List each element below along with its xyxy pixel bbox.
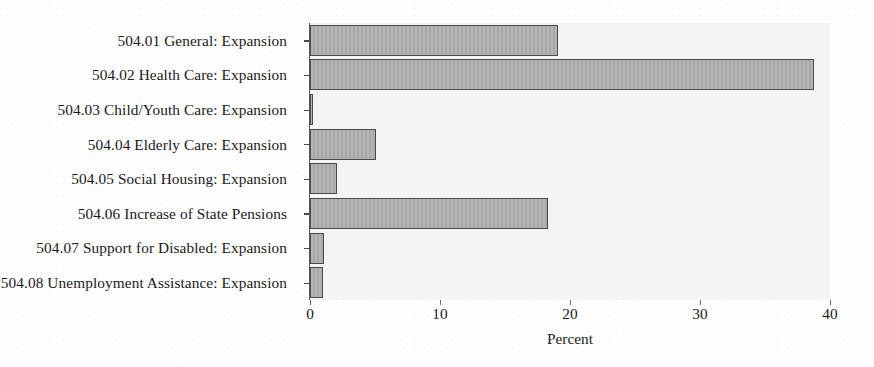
bar <box>310 233 324 264</box>
x-tick-label: 0 <box>306 306 314 321</box>
category-label: 504.08 Unemployment Assistance: Expansio… <box>0 265 296 300</box>
bar <box>310 59 814 90</box>
x-tick-label: 20 <box>562 306 577 321</box>
category-label: 504.05 Social Housing: Expansion <box>0 162 296 197</box>
bar-row <box>310 265 830 300</box>
bar-row <box>310 127 830 162</box>
x-tick-label: 10 <box>432 306 447 321</box>
bar-row <box>310 23 830 58</box>
y-tick <box>304 213 309 214</box>
category-label: 504.07 Support for Disabled: Expansion <box>0 231 296 266</box>
x-tick-label: 40 <box>822 306 837 321</box>
bar-chart: 504.01 General: Expansion 504.02 Health … <box>0 0 874 367</box>
bar <box>310 267 323 298</box>
category-label: 504.02 Health Care: Expansion <box>0 58 296 93</box>
bar <box>310 25 558 56</box>
category-label: 504.03 Child/Youth Care: Expansion <box>0 92 296 127</box>
bar-row <box>310 58 830 93</box>
category-label: 504.01 General: Expansion <box>0 23 296 58</box>
category-axis-labels: 504.01 General: Expansion 504.02 Health … <box>0 23 296 300</box>
y-tick <box>304 248 309 249</box>
bar <box>310 163 337 194</box>
y-tick <box>304 110 309 111</box>
y-tick <box>304 179 309 180</box>
y-axis-line <box>309 23 310 300</box>
y-tick <box>304 144 309 145</box>
x-axis-title: Percent <box>547 331 593 346</box>
bar <box>310 198 548 229</box>
y-tick <box>304 40 309 41</box>
bar-row <box>310 92 830 127</box>
bar-row <box>310 231 830 266</box>
y-tick <box>304 75 309 76</box>
bar-row <box>310 162 830 197</box>
bar-row <box>310 196 830 231</box>
bar <box>310 129 376 160</box>
y-tick <box>304 283 309 284</box>
category-label: 504.06 Increase of State Pensions <box>0 196 296 231</box>
plot-area <box>310 23 830 300</box>
bar-rows <box>310 23 830 300</box>
category-label: 504.04 Elderly Care: Expansion <box>0 127 296 162</box>
x-tick-label: 30 <box>692 306 707 321</box>
